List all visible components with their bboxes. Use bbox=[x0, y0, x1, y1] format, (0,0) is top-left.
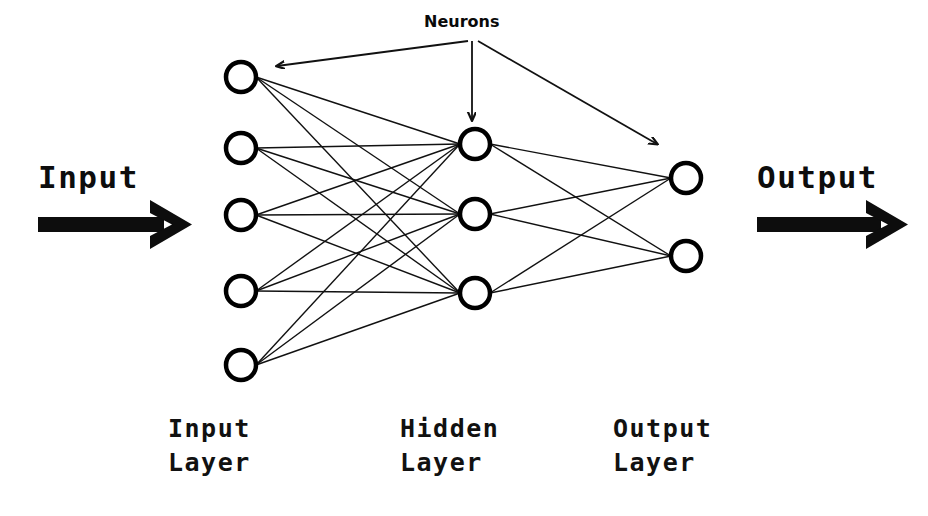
input-layer-caption-line2: Layer bbox=[168, 446, 251, 480]
neuron-input-2 bbox=[226, 133, 256, 163]
output-layer-caption: Output Layer bbox=[613, 412, 712, 480]
neurons-annotation-label: Neurons bbox=[424, 12, 499, 31]
neurons-to-input-arrow bbox=[277, 41, 468, 66]
hidden-layer-caption: Hidden Layer bbox=[400, 412, 499, 480]
output-flow-label: Output bbox=[757, 159, 878, 195]
input-layer-caption-line1: Input bbox=[168, 412, 251, 446]
neuron-input-4 bbox=[226, 276, 256, 306]
input-layer-caption: Input Layer bbox=[168, 412, 251, 480]
output-flow-arrow bbox=[757, 200, 908, 249]
neuron-input-1 bbox=[226, 62, 256, 92]
output-layer-caption-line1: Output bbox=[613, 412, 712, 446]
hidden-layer-caption-line1: Hidden bbox=[400, 412, 499, 446]
connections-input-hidden bbox=[256, 77, 460, 365]
neuron-hidden-1 bbox=[460, 129, 490, 159]
neuron-input-5 bbox=[226, 350, 256, 380]
neural-network-diagram: Neurons Input Output Input Layer Hidden … bbox=[0, 0, 928, 516]
neuron-output-1 bbox=[671, 163, 701, 193]
input-flow-label: Input bbox=[38, 159, 139, 195]
neuron-output-2 bbox=[671, 241, 701, 271]
neuron-hidden-3 bbox=[460, 278, 490, 308]
output-layer-neurons bbox=[671, 163, 701, 271]
input-flow-arrow bbox=[38, 200, 192, 249]
connections-hidden-output bbox=[490, 144, 671, 293]
neuron-hidden-2 bbox=[460, 199, 490, 229]
output-layer-caption-line2: Layer bbox=[613, 446, 712, 480]
hidden-layer-neurons bbox=[460, 129, 490, 308]
neuron-input-3 bbox=[226, 200, 256, 230]
input-layer-neurons bbox=[226, 62, 256, 380]
hidden-layer-caption-line2: Layer bbox=[400, 446, 499, 480]
neurons-to-output-arrow bbox=[478, 41, 657, 144]
